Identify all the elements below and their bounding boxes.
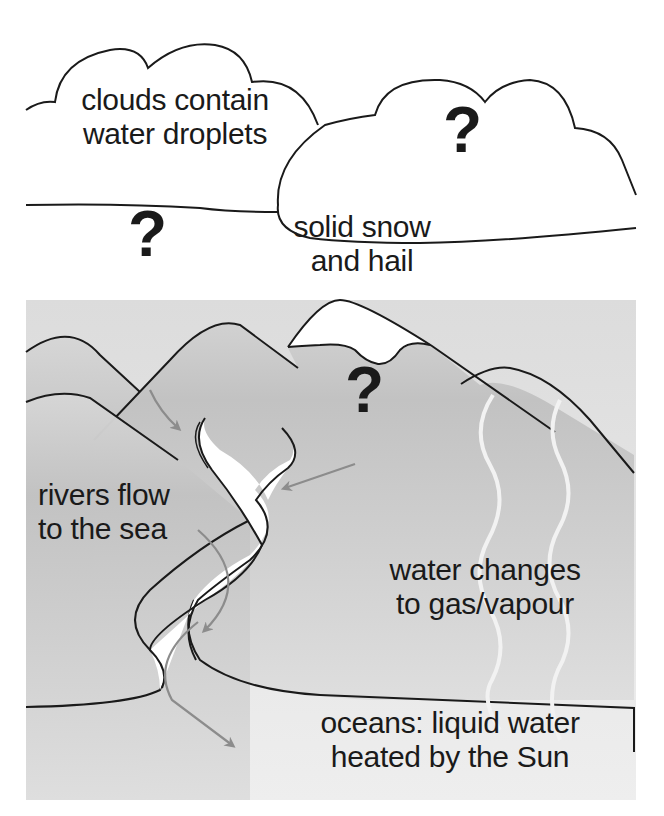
oceans-label-line-2: heated by the Sun [290,740,610,774]
clouds-label-line-1: clouds contain [60,83,290,117]
rivers-label: rivers flow to the sea [38,478,218,546]
question-mark-sky: ? [128,202,167,266]
question-mark-cloud: ? [443,98,482,162]
clouds-label-line-2: water droplets [60,117,290,151]
evaporation-label-line-1: water changes [370,553,600,587]
rivers-label-line-1: rivers flow [38,478,218,512]
evaporation-label-line-2: to gas/vapour [370,587,600,621]
snow-label-line-2: and hail [262,244,462,278]
water-cycle-diagram: clouds contain water droplets solid snow… [0,0,664,816]
oceans-label-line-1: oceans: liquid water [290,706,610,740]
snow-label-line-1: solid snow [262,210,462,244]
rivers-label-line-2: to the sea [38,512,218,546]
question-mark-mountain: ? [345,358,384,422]
evaporation-label: water changes to gas/vapour [370,553,600,621]
clouds-label: clouds contain water droplets [60,83,290,151]
snow-label: solid snow and hail [262,210,462,278]
oceans-label: oceans: liquid water heated by the Sun [290,758,610,774]
